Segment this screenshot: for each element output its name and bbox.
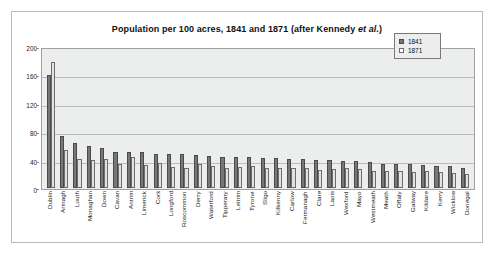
- bar-group: [352, 50, 365, 188]
- bar-group: [365, 50, 378, 188]
- x-axis-tick-label: Armagh: [56, 191, 69, 241]
- bar-1871: [425, 171, 429, 188]
- legend-label-1871: 1871: [408, 47, 422, 54]
- bar-series-container: [43, 50, 473, 188]
- x-axis-tick-label: Monaghan: [83, 191, 96, 241]
- x-axis-tick-label: Kildare: [419, 191, 432, 241]
- bar-1871: [318, 170, 322, 188]
- x-axis-tick-label: Mayo: [352, 191, 365, 241]
- bar-group: [312, 50, 325, 188]
- y-axis-tick-mark: [36, 133, 39, 134]
- x-axis-tick-label: Tipperary: [218, 191, 231, 241]
- x-axis-tick-label: Tyrone: [245, 191, 258, 241]
- x-axis-tick-label: Kerry: [433, 191, 446, 241]
- bar-1871: [171, 167, 175, 188]
- bar-group: [151, 50, 164, 188]
- x-axis-tick-label: Wexford: [339, 191, 352, 241]
- bar-group: [138, 50, 151, 188]
- x-axis-tick-label: Limerick: [137, 191, 150, 241]
- bar-group: [98, 50, 111, 188]
- chart-frame: Population per 100 acres, 1841 and 1871 …: [11, 11, 483, 243]
- x-axis-tick-label: Meath: [379, 191, 392, 241]
- bar-1871: [77, 159, 81, 188]
- y-axis-tick-mark: [36, 105, 39, 106]
- bar-group: [285, 50, 298, 188]
- bar-1871: [398, 171, 402, 188]
- bar-group: [378, 50, 391, 188]
- bar-1871: [465, 174, 469, 188]
- bar-1871: [265, 168, 269, 188]
- chart-legend: 1841 1871: [394, 33, 441, 59]
- x-axis-tick-label: Cavan: [110, 191, 123, 241]
- bar-1871: [144, 165, 148, 188]
- bar-group: [71, 50, 84, 188]
- bar-1871: [104, 159, 108, 188]
- x-axis-tick-label: Galway: [406, 191, 419, 241]
- bar-1871: [278, 168, 282, 188]
- x-axis-tick-label: Dublin: [43, 191, 56, 241]
- plot-area: [41, 48, 475, 190]
- bar-group: [325, 50, 338, 188]
- x-axis-tick-label: Down: [97, 191, 110, 241]
- bar-group: [124, 50, 137, 188]
- x-axis-tick-label: Louth: [70, 191, 83, 241]
- bar-1871: [385, 171, 389, 188]
- x-axis-tick-label: Antrim: [124, 191, 137, 241]
- x-axis-tick-label: Cork: [151, 191, 164, 241]
- bar-1871: [439, 172, 443, 188]
- bar-group: [405, 50, 418, 188]
- bar-1871: [51, 62, 55, 188]
- legend-swatch-1871-icon: [399, 48, 404, 53]
- legend-item-1841: 1841: [399, 37, 436, 46]
- bar-1871: [91, 160, 95, 188]
- bar-group: [432, 50, 445, 188]
- legend-label-1841: 1841: [408, 38, 422, 45]
- bar-1871: [198, 164, 202, 189]
- bar-group: [392, 50, 405, 188]
- bar-group: [191, 50, 204, 188]
- bar-group: [459, 50, 472, 188]
- bar-1871: [291, 168, 295, 188]
- bar-group: [445, 50, 458, 188]
- x-axis-labels: DublinArmaghLouthMonaghanDownCavanAntrim…: [41, 191, 475, 241]
- y-axis-tick-mark: [36, 189, 39, 190]
- bar-group: [245, 50, 258, 188]
- y-axis-tick-mark: [36, 76, 39, 77]
- x-axis-tick-label: Sligo: [258, 191, 271, 241]
- x-axis-tick-label: Leitrim: [231, 191, 244, 241]
- legend-item-1871: 1871: [399, 46, 436, 55]
- x-axis-tick-label: Roscommon: [177, 191, 190, 241]
- bar-1871: [372, 171, 376, 189]
- bar-group: [338, 50, 351, 188]
- bar-group: [419, 50, 432, 188]
- x-axis-tick-label: Clare: [312, 191, 325, 241]
- x-axis-tick-label: Wicklow: [446, 191, 459, 241]
- y-axis-tick-mark: [36, 48, 39, 49]
- bar-1871: [131, 157, 135, 189]
- bar-1871: [118, 164, 122, 189]
- plot-wrapper: [41, 48, 475, 190]
- x-axis-tick-label: Offaly: [392, 191, 405, 241]
- x-axis-tick-label: Westmeath: [366, 191, 379, 241]
- bar-1871: [452, 173, 456, 188]
- bar-1871: [412, 172, 416, 188]
- bar-group: [298, 50, 311, 188]
- x-axis-tick-label: Derry: [191, 191, 204, 241]
- bar-1871: [158, 163, 162, 188]
- x-axis-tick-label: Donegal: [460, 191, 473, 241]
- bar-group: [111, 50, 124, 188]
- bar-1871: [64, 150, 68, 188]
- bar-group: [258, 50, 271, 188]
- y-axis: 04080120160200: [17, 48, 39, 190]
- bar-group: [271, 50, 284, 188]
- bar-1871: [332, 169, 336, 188]
- chart-title-text-plain: Population per 100 acres, 1841 and 1871 …: [112, 24, 358, 34]
- bar-1871: [184, 168, 188, 188]
- bar-1871: [251, 166, 255, 188]
- legend-swatch-1841-icon: [399, 39, 404, 44]
- bar-1871: [305, 168, 309, 188]
- x-axis-tick-label: Carlow: [285, 191, 298, 241]
- bar-group: [178, 50, 191, 188]
- x-axis-tick-label: Laois: [325, 191, 338, 241]
- bar-group: [218, 50, 231, 188]
